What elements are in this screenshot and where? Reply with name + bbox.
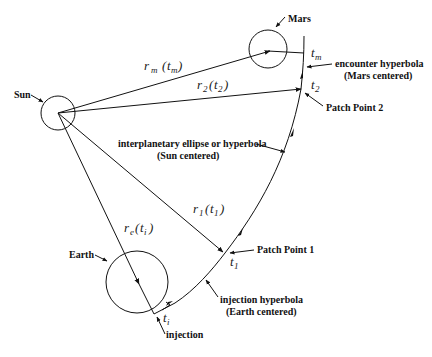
svg-text:2: 2 (203, 84, 208, 94)
svg-text:2: 2 (315, 84, 320, 94)
vector-r2-line (58, 89, 301, 113)
injection-hyperbola-label: injection hyperbola (220, 294, 303, 305)
sun-pointer-arrow (31, 95, 43, 102)
injection-hyperbola-pointer-arrow (206, 280, 218, 297)
mars-pointer-arrow (276, 17, 285, 27)
patch-point-2-label: Patch Point 2 (326, 102, 383, 113)
time-ti-label: t i (163, 310, 170, 327)
svg-text:): ) (219, 201, 224, 216)
svg-text:i: i (144, 227, 147, 237)
trajectory-injection-hyperbola (154, 253, 225, 314)
patch-point-1-label: Patch Point 1 (257, 244, 314, 255)
interplanetary-sublabel: (Sun centered) (157, 150, 219, 162)
svg-text:e: e (130, 227, 134, 237)
interplanetary-label: interplanetary ellipse or hyperbola (118, 138, 266, 149)
earth-circle (106, 251, 168, 313)
encounter-hyperbola-sublabel: (Mars centered) (344, 70, 412, 82)
earth-to-injection-line (139, 284, 154, 314)
vector-rm-label: r m ( t m ) (144, 58, 182, 75)
injection-hyperbola-sublabel: (Earth centered) (226, 306, 297, 318)
encounter-hyperbola-label: encounter hyperbola (335, 58, 423, 69)
svg-text:1: 1 (199, 208, 204, 218)
vector-r2-label: r 2 ( t 2 ) (197, 77, 228, 94)
vector-r1-label: r 1 ( t 1 ) (193, 201, 224, 218)
patch2-pointer-arrow (305, 93, 323, 106)
patch1-pointer-arrow (230, 250, 254, 253)
mars-to-tm-line (268, 51, 304, 53)
time-t1-label: t 1 (230, 254, 239, 271)
svg-text:): ) (148, 220, 153, 235)
vector-re-label: r e ( t i ) (124, 220, 153, 237)
earth-pointer-arrow (95, 255, 107, 261)
trajectory-interplanetary (225, 89, 301, 253)
earth-label: Earth (69, 249, 94, 260)
svg-text:1: 1 (214, 208, 219, 218)
svg-text:1: 1 (234, 261, 239, 271)
sun-label: Sun (14, 89, 31, 100)
svg-text:m: m (315, 52, 322, 62)
svg-text:m: m (151, 65, 158, 75)
svg-text:m: m (171, 65, 178, 75)
encounter-pointer-arrow (307, 64, 332, 67)
svg-text:2: 2 (218, 84, 223, 94)
patched-conic-diagram: Sun Earth Mars r m ( t m ) r 2 ( t 2 ) r… (0, 0, 432, 357)
mars-circle (249, 30, 287, 68)
svg-text:): ) (223, 77, 228, 92)
svg-text:r: r (144, 58, 150, 73)
time-t2-label: t 2 (311, 77, 320, 94)
svg-text:i: i (167, 317, 170, 327)
trajectory-encounter (301, 36, 304, 89)
time-tm-label: t m (311, 45, 322, 62)
svg-text:): ) (177, 58, 182, 73)
injection-label: injection (166, 329, 204, 340)
mars-label: Mars (288, 13, 311, 24)
